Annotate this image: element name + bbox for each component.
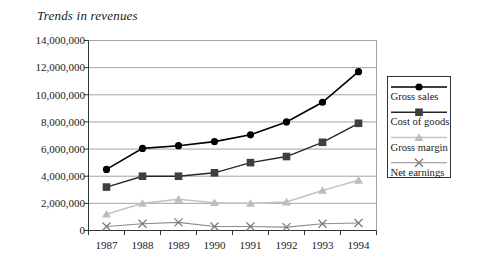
y-tick-label: 10,000,000 <box>36 89 86 101</box>
series-marker-circle-icon <box>103 166 110 173</box>
series-line-gross-sales <box>107 72 359 170</box>
series-marker-circle-icon <box>247 131 254 138</box>
legend-marker-circle-icon <box>415 83 422 90</box>
y-tick-label: 6,000,000 <box>41 143 86 155</box>
y-tick-label: 12,000,000 <box>36 61 86 73</box>
x-tick-label: 1991 <box>240 239 262 251</box>
x-tick-label: 1994 <box>348 239 371 251</box>
series-marker-circle-icon <box>283 118 290 125</box>
x-tick-label: 1993 <box>312 239 335 251</box>
x-tick-label: 1989 <box>168 239 191 251</box>
chart-svg: 02,000,0004,000,0006,000,0008,000,00010,… <box>0 0 478 266</box>
series-marker-circle-icon <box>139 145 146 152</box>
series-marker-square-icon <box>355 119 363 127</box>
series-marker-square-icon <box>139 172 147 180</box>
y-tick-label: 2,000,000 <box>41 197 86 209</box>
series-marker-square-icon <box>319 138 327 146</box>
chart-container: Trends in revenues 02,000,0004,000,0006,… <box>0 0 478 266</box>
y-tick-label: 8,000,000 <box>41 116 86 128</box>
series-marker-square-icon <box>247 159 255 167</box>
series-marker-square-icon <box>175 172 183 180</box>
series-marker-circle-icon <box>319 99 326 106</box>
x-tick-label: 1988 <box>132 239 155 251</box>
x-tick-label: 1987 <box>96 239 119 251</box>
x-tick-label: 1990 <box>204 239 227 251</box>
series-marker-circle-icon <box>211 138 218 145</box>
series-marker-square-icon <box>103 183 111 191</box>
x-tick-label: 1992 <box>276 239 298 251</box>
y-tick-label: 4,000,000 <box>41 170 86 182</box>
series-marker-triangle-icon <box>354 176 363 184</box>
series-line-gross-margin <box>107 180 359 214</box>
series-marker-circle-icon <box>355 68 362 75</box>
legend-label: Cost of goods <box>391 116 450 127</box>
series-marker-circle-icon <box>175 142 182 149</box>
legend-label: Gross margin <box>391 142 449 153</box>
y-tick-label: 14,000,000 <box>36 34 86 46</box>
legend-label: Gross sales <box>391 91 439 102</box>
y-tick-label: 0 <box>80 224 86 236</box>
series-marker-square-icon <box>283 153 291 161</box>
series-marker-square-icon <box>211 169 219 177</box>
legend-label: Net earnings <box>391 167 445 178</box>
legend-marker-square-icon <box>415 108 423 116</box>
